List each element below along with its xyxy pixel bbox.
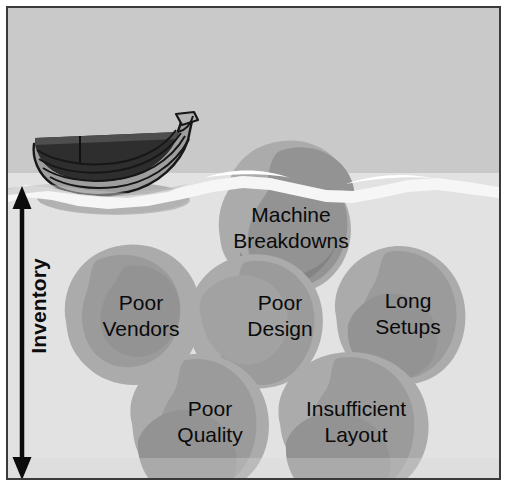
figure-frame: Inventory Machine Breakdowns Poor Vendor… [6, 6, 501, 480]
scene-illustration [8, 8, 499, 478]
sea-of-inventory-figure: Inventory Machine Breakdowns Poor Vendor… [0, 0, 507, 486]
